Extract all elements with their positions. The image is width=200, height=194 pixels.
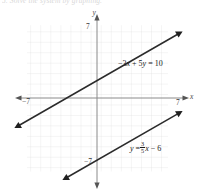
figure-page: 5. Solve the system by graphing. — [0, 0, 200, 194]
equation-label-line-1: −3x + 5y = 10 — [118, 59, 163, 68]
eq1-variable-x: x — [127, 59, 131, 68]
equation-label-line-2: y =35x − 6 — [130, 141, 161, 155]
eq2-constant: 6 — [157, 144, 161, 153]
graph-svg — [0, 0, 200, 194]
coordinate-plane-figure: y x 7 −7 −7 7 −3x + 5y = 10 y =35x − 6 — [0, 0, 200, 194]
eq2-variable-y: y — [130, 144, 134, 153]
eq1-right-hand-side: 10 — [155, 59, 163, 68]
x-axis-tick-7: 7 — [176, 98, 180, 107]
y-axis-tick-7: 7 — [86, 22, 90, 31]
eq2-equals-sign: = — [136, 144, 141, 153]
x-axis-label: x — [190, 92, 193, 101]
eq1-equals-sign: = — [148, 59, 153, 68]
eq1-coefficient-a: −3 — [118, 59, 127, 68]
x-axis-tick-negative-7: −7 — [22, 97, 30, 106]
eq1-variable-y: y — [143, 59, 147, 68]
y-axis-label: y — [93, 8, 96, 17]
eq1-plus-sign: + — [132, 59, 137, 68]
eq2-variable-x: x — [145, 144, 149, 153]
eq2-minus-sign: − — [151, 144, 156, 153]
y-axis-tick-negative-7: −7 — [84, 157, 92, 166]
